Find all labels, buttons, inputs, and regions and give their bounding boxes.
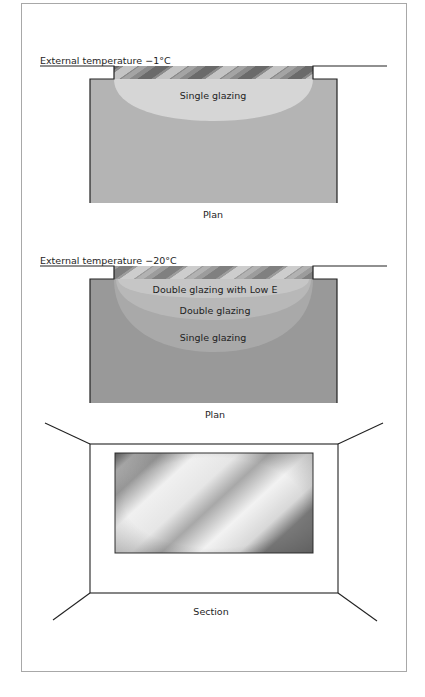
zone-label-single-glazing: Single glazing	[180, 90, 246, 101]
window-glass-icon	[114, 266, 313, 279]
section-caption: Section	[193, 606, 228, 617]
zone-label-double-glazing: Double glazing	[180, 305, 251, 316]
ceiling-edge-right	[338, 423, 383, 444]
plan-caption: Plan	[203, 209, 223, 220]
plan-caption: Plan	[205, 409, 225, 420]
external-temperature-label: External temperature −1°C	[40, 55, 171, 66]
floor-edge-left	[53, 593, 90, 620]
zone-label-single-glazing: Single glazing	[180, 332, 246, 343]
floor-edge-right	[338, 593, 377, 621]
glazing-comfort-diagram	[0, 0, 425, 697]
ceiling-edge-left	[45, 423, 90, 444]
external-temperature-label: External temperature −20°C	[40, 255, 177, 266]
plan-1	[40, 66, 387, 203]
zone-label-double-glazing-low-e: Double glazing with Low E	[153, 284, 278, 295]
section-view	[45, 423, 383, 621]
window-glass-icon	[114, 66, 313, 79]
window-edge-shade	[115, 453, 313, 553]
